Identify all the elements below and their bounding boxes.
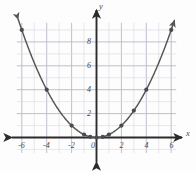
data-point <box>94 135 98 139</box>
data-point <box>107 132 111 136</box>
x-tick-label: 2 <box>120 142 124 150</box>
data-point <box>169 28 173 32</box>
x-tick-label: 4 <box>145 142 149 150</box>
x-tick-label: -6 <box>18 142 25 150</box>
data-point <box>45 88 49 92</box>
x-tick-label: 6 <box>169 142 173 150</box>
data-point <box>132 109 136 113</box>
x-axis-name: x <box>186 129 190 138</box>
y-axis-name: y <box>99 2 103 11</box>
data-point <box>70 123 74 127</box>
data-point <box>82 132 86 136</box>
data-point <box>20 28 24 32</box>
data-point <box>101 135 105 139</box>
data-point <box>144 88 148 92</box>
y-tick-label: 6 <box>87 62 91 70</box>
coordinate-plane-svg <box>0 0 196 173</box>
x-tick-label: -4 <box>43 142 50 150</box>
data-point <box>119 123 123 127</box>
data-point <box>88 135 92 139</box>
y-tick-label: 2 <box>87 110 91 118</box>
x-tick-label-origin: 0 <box>91 142 95 150</box>
x-tick-label: -2 <box>68 142 75 150</box>
graph-figure: -6-4-202462468xy <box>0 0 196 173</box>
y-tick-label: 8 <box>87 38 91 46</box>
y-tick-label: 4 <box>87 86 91 94</box>
